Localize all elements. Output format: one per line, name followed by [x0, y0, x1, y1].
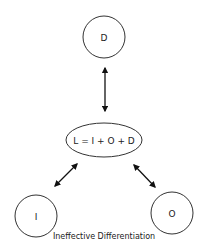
node-i: I	[15, 195, 57, 237]
arrow-center-i	[55, 164, 77, 186]
node-center-label: L = I + O + D	[73, 136, 135, 146]
diagram-caption: Ineffective Differentiation	[53, 232, 155, 241]
node-d-label: D	[101, 33, 108, 43]
node-o: O	[151, 192, 193, 234]
diagram-canvas: D L = I + O + D I O Ineffective Differen…	[0, 0, 207, 248]
node-d: D	[83, 16, 125, 58]
node-center: L = I + O + D	[66, 123, 142, 157]
node-o-label: O	[168, 209, 175, 219]
node-i-label: I	[35, 212, 38, 222]
arrow-center-o	[134, 165, 155, 187]
